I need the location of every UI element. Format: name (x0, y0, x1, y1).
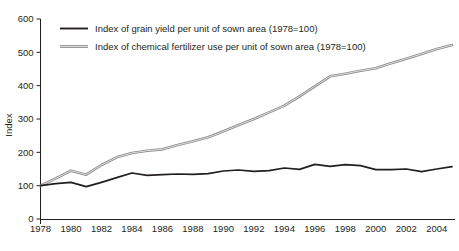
x-axis-tick-label: 1994 (274, 223, 295, 234)
series-line-fertilizer-highlight (41, 45, 453, 186)
x-axis-tick-label: 1980 (60, 223, 81, 234)
x-axis-tick-label: 1998 (335, 223, 356, 234)
y-axis-tick-label: 600 (18, 13, 34, 24)
line-chart: 0100200300400500600 19781980198219841986… (0, 0, 459, 251)
x-axis-tick-label: 1988 (182, 223, 203, 234)
y-axis-tick-label: 200 (18, 147, 34, 158)
y-axis-tick-label: 300 (18, 113, 34, 124)
y-axis-tick-label: 100 (18, 180, 34, 191)
x-axis-tick-label: 2002 (396, 223, 417, 234)
y-axis-tick-group: 0100200300400500600 (18, 13, 41, 224)
chart-canvas: 0100200300400500600 19781980198219841986… (0, 0, 459, 251)
y-axis-tick-label: 500 (18, 47, 34, 58)
x-axis-tick-label: 1986 (152, 223, 173, 234)
legend: Index of grain yield per unit of sown ar… (60, 23, 366, 52)
x-axis-tick-group: 1978198019821984198619881990199219941996… (30, 219, 447, 234)
x-axis-tick-label: 2000 (365, 223, 386, 234)
x-axis-tick-label: 1990 (213, 223, 234, 234)
x-axis-tick-label: 1978 (30, 223, 51, 234)
x-axis-tick-label: 1982 (91, 223, 112, 234)
y-axis-tick-label: 400 (18, 80, 34, 91)
series-line-grain-yield (41, 164, 453, 186)
x-axis-tick-label: 2004 (426, 223, 447, 234)
x-axis-tick-label: 1984 (121, 223, 142, 234)
x-axis-tick-label: 1992 (243, 223, 264, 234)
legend-label-fertilizer: Index of chemical fertilizer use per uni… (95, 41, 366, 52)
y-axis-title: Index (3, 113, 14, 136)
x-axis-tick-label: 1996 (304, 223, 325, 234)
legend-label-grain-yield: Index of grain yield per unit of sown ar… (95, 23, 318, 34)
